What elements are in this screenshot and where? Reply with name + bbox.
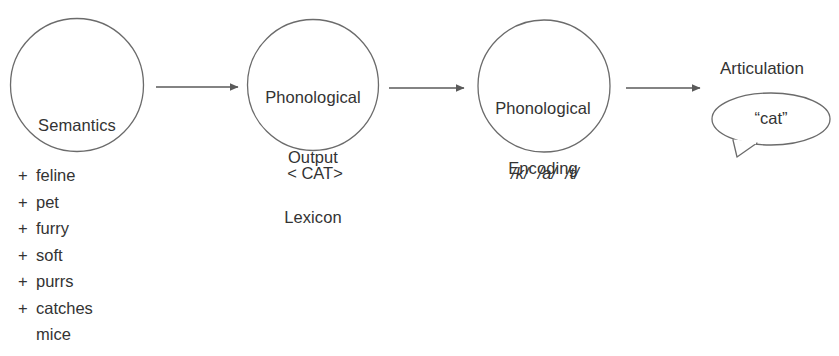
node-label-line: Phonological — [246, 87, 380, 107]
feature-plus-marker: + — [18, 189, 36, 216]
semantic-feature-item: +purrs — [18, 268, 208, 295]
node-caption-lexical-entry: < CAT> — [248, 163, 382, 183]
node-label-line: Lexicon — [246, 207, 380, 227]
speech-production-diagram: Semantics Phonological Output Lexicon Ph… — [0, 0, 839, 356]
semantic-feature-item: mice — [18, 321, 208, 348]
semantic-feature-item: +catches — [18, 295, 208, 322]
feature-plus-marker: + — [18, 242, 36, 269]
node-caption-phoneme-string: /k/ /a/ /t/ — [478, 163, 612, 183]
feature-label: purrs — [36, 272, 74, 290]
feature-label: feline — [36, 166, 75, 184]
node-label-line: Semantics — [10, 115, 144, 135]
feature-label: furry — [36, 219, 69, 237]
feature-label: mice — [36, 325, 71, 343]
feature-plus-marker: + — [18, 215, 36, 242]
semantic-feature-item: +pet — [18, 189, 208, 216]
semantic-feature-list: +feline+pet+furry+soft+purrs+catchesmice — [18, 162, 208, 348]
semantic-feature-item: +feline — [18, 162, 208, 189]
stage-heading-articulation: Articulation — [700, 58, 824, 80]
feature-plus-marker: + — [18, 162, 36, 189]
feature-label: catches — [36, 299, 93, 317]
node-label-line: Phonological — [476, 98, 610, 118]
feature-label: soft — [36, 246, 63, 264]
node-label-phonological-output-lexicon: Phonological Output Lexicon — [246, 47, 380, 267]
feature-label: pet — [36, 193, 59, 211]
feature-plus-marker: + — [18, 268, 36, 295]
node-label-phonological-encoding: Phonological Encoding — [476, 58, 610, 218]
semantic-feature-item: +furry — [18, 215, 208, 242]
speech-bubble-text: “cat” — [712, 108, 830, 128]
semantic-feature-item: +soft — [18, 242, 208, 269]
feature-plus-marker: + — [18, 295, 36, 322]
node-label-semantics: Semantics — [10, 75, 144, 175]
